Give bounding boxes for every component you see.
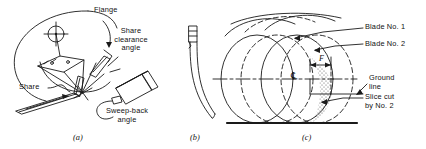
label-slice-cut-by-no-2: Slice cutby No. 2 (365, 93, 394, 110)
sweep-back-angle-line-2: angle (118, 115, 137, 124)
blade-curve-inner (190, 42, 212, 118)
sweepback-blade-top (116, 71, 148, 88)
tip-cross-2 (78, 86, 88, 100)
label-share: Share (19, 83, 39, 92)
share-direction-line (26, 96, 68, 109)
sweepback-blade-side (142, 71, 158, 90)
label-share-clearance-angle: Shareclearanceangle (108, 27, 154, 53)
crest-arc-2 (245, 17, 315, 32)
caption-panel-b: (b) (190, 133, 200, 142)
label-blade-no-2: Blade No. 2 (365, 40, 405, 49)
label-ground-line: Groundline (369, 74, 395, 91)
technical-figure: Flange Shareclearanceangle Share Sweep-b… (0, 0, 426, 149)
share-bolt-hole-2 (67, 61, 70, 64)
clearance-blade (90, 56, 110, 77)
clearance-angle-arm-2 (110, 69, 120, 72)
label-flange: Flange (94, 6, 118, 15)
crest-envelope-top (231, 13, 341, 24)
linkage-line-3 (82, 60, 84, 93)
blade-shank (189, 26, 197, 42)
share-plate-top (38, 56, 84, 72)
caption-panel-a: (a) (73, 133, 83, 142)
linkage-line-4 (82, 74, 104, 93)
sweepback-tab (112, 96, 122, 104)
dimension-label-F: F (319, 54, 324, 63)
label-sweep-back-angle: Sweep-backangle (96, 107, 158, 124)
caption-panel-c: (c) (302, 133, 311, 142)
centerline-symbol: ℄ (291, 70, 297, 81)
linkage-line-hub (56, 34, 60, 56)
share-bolt-hole-1 (51, 62, 54, 65)
slice-cut-label-line-2: by No. 2 (365, 101, 394, 110)
leader-ground-line-arrowhead (356, 89, 363, 95)
leader-blade-2-arrowhead (314, 47, 320, 53)
leader-blade-1-arrowhead (294, 35, 300, 41)
dim-arrowhead-right (325, 63, 331, 68)
share-clearance-angle-line-3: angle (122, 43, 141, 52)
crest-arc-1 (225, 19, 295, 36)
ground-line-label-line-2: line (369, 82, 381, 91)
label-blade-no-1: Blade No. 1 (365, 23, 405, 32)
share-plate-hatch (44, 59, 56, 64)
